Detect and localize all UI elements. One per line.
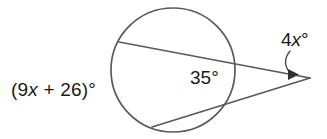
secant-line-lower: [152, 78, 310, 127]
near-arc-label-value: 35: [190, 67, 211, 88]
far-arc-label: (9x + 26)°: [11, 80, 96, 99]
vertex-angle-label-variable: x: [292, 29, 302, 50]
far-arc-label-prefix: (9: [11, 79, 28, 100]
figure-canvas: [0, 0, 327, 139]
vertex-angle-arrowhead-icon: [288, 69, 299, 80]
vertex-angle-label-coefficient: 4: [281, 29, 292, 50]
vertex-angle-label-degree: °: [301, 29, 309, 50]
vertex-angle-label: 4x°: [281, 30, 309, 49]
far-arc-label-variable: x: [28, 79, 38, 100]
near-arc-label: 35°: [190, 68, 219, 87]
far-arc-label-suffix: + 26)°: [38, 79, 96, 100]
near-arc-label-degree: °: [211, 67, 219, 88]
geometry-figure: (9x + 26)° 35° 4x°: [0, 0, 327, 139]
